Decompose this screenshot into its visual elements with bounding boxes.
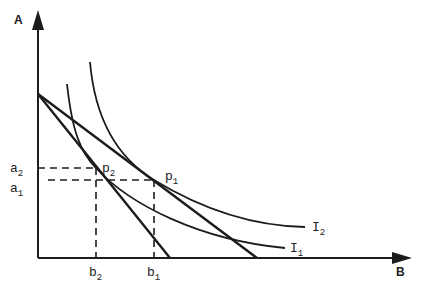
y-axis-label: A (14, 13, 23, 27)
y-axis-arrow-icon (32, 10, 44, 30)
b2-label: b2 (89, 265, 102, 283)
x-axis-label: B (396, 265, 405, 279)
I2-label: I2 (312, 220, 325, 238)
a2-label: a2 (10, 161, 23, 179)
b1-label: b1 (147, 265, 160, 283)
indifference-curve-I2 (90, 62, 305, 227)
x-axis-arrow-icon (392, 252, 412, 264)
p1-label: p1 (165, 169, 178, 187)
I1-label: I1 (290, 241, 303, 259)
a1-label: a1 (10, 181, 23, 199)
indifference-curve-diagram: A B a2 a1 b2 b1 p2 p1 I2 I1 (0, 0, 426, 293)
